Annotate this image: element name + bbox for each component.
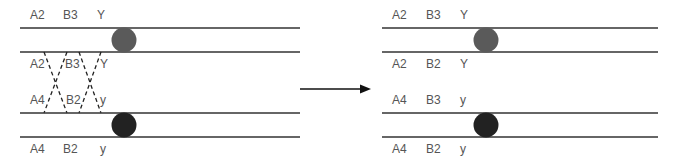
gene-label: B2 [426,57,441,71]
gene-label: A2 [392,57,407,71]
right-bottom-chromosome: A4 B3 y A4 B2 y [382,93,658,156]
arrow-icon [300,85,371,94]
gene-label: A4 [30,93,45,107]
gene-label: A2 [30,8,45,22]
gene-label: Y [460,57,468,71]
gene-label: B3 [426,93,441,107]
gene-label: y [460,93,466,107]
gene-label: A4 [392,142,407,156]
gene-label: B2 [63,142,78,156]
gene-label: Y [100,57,108,71]
left-top-chromosome: A2 B3 Y A2 B3 Y [20,8,300,71]
gene-label: A4 [30,142,45,156]
centromere-dark [474,113,499,138]
left-panel: A2 B3 Y A2 B3 Y A4 B2 y A4 B2 y [20,8,300,156]
gene-label: A4 [392,93,407,107]
centromere-gray [112,28,137,53]
gene-label: B2 [426,142,441,156]
gene-label: B3 [426,8,441,22]
right-panel: A2 B3 Y A2 B2 Y A4 B3 y A4 B2 y [382,8,658,156]
gene-label: Y [460,8,468,22]
gene-label: Y [97,8,105,22]
centromere-dark [112,113,137,138]
left-bottom-chromosome: A4 B2 y A4 B2 y [20,93,300,156]
gene-label: B2 [66,93,81,107]
gene-label: y [100,93,106,107]
gene-label: B3 [63,8,78,22]
gene-label: y [100,142,106,156]
gene-label: y [460,142,466,156]
crossover-diagram: A2 B3 Y A2 B3 Y A4 B2 y A4 B2 y [0,0,676,161]
right-top-chromosome: A2 B3 Y A2 B2 Y [382,8,658,71]
gene-label: A2 [30,57,45,71]
centromere-gray [474,28,499,53]
gene-label: B3 [65,57,80,71]
gene-label: A2 [392,8,407,22]
